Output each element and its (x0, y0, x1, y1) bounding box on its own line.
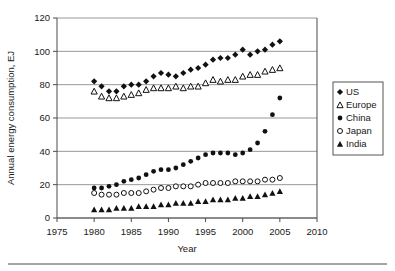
data-point (151, 169, 156, 174)
data-point (240, 195, 246, 201)
data-point (173, 83, 179, 89)
data-point (225, 151, 230, 156)
chart-legend[interactable]: USEuropeChinaJapanIndia (333, 82, 383, 155)
data-point (181, 162, 186, 167)
data-point (270, 177, 275, 182)
data-point (121, 93, 127, 99)
data-point (218, 151, 223, 156)
data-point (173, 200, 179, 206)
series-india (91, 188, 283, 212)
data-point (159, 167, 164, 172)
data-point (150, 203, 156, 209)
data-point (277, 38, 283, 44)
y-tick-label: 0 (45, 212, 50, 223)
data-point (173, 184, 178, 189)
y-tick-label: 60 (39, 112, 50, 123)
data-point (202, 62, 208, 68)
data-point (254, 193, 260, 199)
data-point (159, 186, 164, 191)
data-point (269, 190, 275, 196)
data-point (144, 172, 149, 177)
data-point (121, 205, 127, 211)
data-point (181, 184, 186, 189)
data-point (91, 207, 97, 213)
data-point (225, 55, 231, 61)
data-point (263, 177, 268, 182)
data-point (232, 77, 238, 83)
data-point (150, 73, 156, 79)
x-tick-label: 2010 (306, 226, 327, 237)
data-point (240, 47, 246, 53)
data-point (180, 85, 186, 91)
data-point (255, 141, 260, 146)
data-point (98, 93, 104, 99)
data-point (202, 80, 208, 86)
x-tick-label: 1995 (195, 226, 216, 237)
data-point (173, 166, 178, 171)
data-point (263, 129, 268, 134)
energy-consumption-figure: 020406080100120 197519801985199019952000… (0, 0, 395, 271)
data-point (128, 92, 134, 98)
data-point (113, 205, 119, 211)
data-point (106, 95, 112, 101)
data-points (91, 38, 283, 212)
data-point (106, 207, 112, 213)
data-point (166, 167, 171, 172)
data-point (217, 78, 223, 84)
data-point (121, 191, 126, 196)
data-point (217, 197, 223, 203)
y-axis-title: Annual energy consumption, EJ (5, 51, 16, 185)
data-point (188, 67, 194, 73)
data-point (255, 179, 260, 184)
data-point (91, 78, 97, 84)
y-tick-label: 20 (39, 179, 50, 190)
data-point (240, 179, 245, 184)
data-point (113, 95, 119, 101)
series-japan (92, 176, 283, 198)
data-point (158, 85, 164, 91)
x-axis: 19751980198519901995200020052010 (46, 218, 327, 237)
y-tick-label: 100 (34, 46, 50, 57)
data-point (233, 179, 238, 184)
data-point (203, 152, 208, 157)
data-point (173, 73, 179, 79)
data-point (225, 181, 230, 186)
data-point (247, 72, 253, 78)
data-point (92, 191, 97, 196)
data-point (269, 67, 275, 73)
data-point (158, 202, 164, 208)
data-point (136, 176, 141, 181)
data-point (136, 90, 142, 96)
x-tick-label: 2000 (232, 226, 253, 237)
data-point (277, 176, 282, 181)
data-point (195, 65, 201, 71)
data-point (248, 147, 253, 152)
data-point (166, 186, 171, 191)
legend-item-label: China (346, 112, 372, 123)
data-point (144, 189, 149, 194)
data-point (114, 192, 119, 197)
data-point (129, 177, 134, 182)
data-point (195, 83, 201, 89)
data-point (121, 83, 127, 89)
data-point (150, 85, 156, 91)
x-tick-label: 1975 (46, 226, 67, 237)
data-point (165, 85, 171, 91)
data-point (143, 87, 149, 93)
data-point (232, 195, 238, 201)
x-tick-label: 1980 (84, 226, 105, 237)
legend-marker-icon (338, 116, 343, 121)
data-point (98, 83, 104, 89)
data-point (158, 70, 164, 76)
data-point (196, 156, 201, 161)
data-point (210, 57, 216, 63)
data-point (92, 186, 97, 191)
data-point (211, 151, 216, 156)
data-point (107, 192, 112, 197)
data-point (128, 82, 134, 88)
data-point (262, 47, 268, 53)
data-point (99, 192, 104, 197)
y-tick-label: 40 (39, 146, 50, 157)
x-axis-title: Year (177, 243, 196, 254)
data-point (240, 151, 245, 156)
